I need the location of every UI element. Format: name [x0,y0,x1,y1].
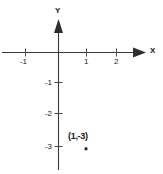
x-axis-label: X [150,47,155,55]
y-tick-label-neg2: -2 [45,110,52,118]
x-axis-arrow-icon [133,48,146,58]
point-annotation-label: (1,-3) [68,132,88,141]
x-tick-label-1: 1 [84,58,88,66]
y-tick-label-neg3: -3 [45,143,52,151]
coordinate-plane-svg [0,0,163,174]
x-tick-label-2: 2 [114,58,118,66]
y-axis-arrow-icon [54,19,63,33]
y-axis-label: Y [55,7,60,15]
x-tick-label-neg1: -1 [20,58,27,66]
data-point-1-neg3 [85,147,88,150]
y-tick-label-neg1: -1 [45,79,52,87]
coordinate-plane-figure: X Y -1 1 2 -1 -2 -3 (1,-3) [0,0,163,174]
